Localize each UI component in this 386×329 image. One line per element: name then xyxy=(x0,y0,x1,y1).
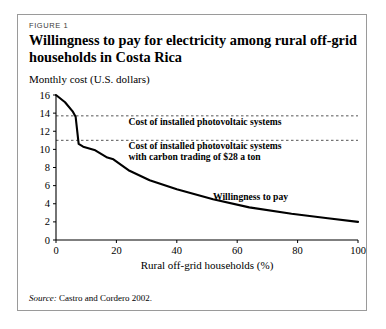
source-citation: Castro and Cordero 2002. xyxy=(57,293,152,303)
willingness-to-pay-line-chart: 0246810121416020406080100Rural off-grid … xyxy=(18,87,368,282)
x-tick-label: 20 xyxy=(111,245,122,256)
chart-plot-area: 0246810121416020406080100Rural off-grid … xyxy=(18,87,368,282)
x-tick-label: 60 xyxy=(232,245,243,256)
figure-card: FIGURE 1 Willingness to pay for electric… xyxy=(17,14,367,311)
y-tick-label: 12 xyxy=(40,126,51,137)
y-axis-title: Monthly cost (U.S. dollars) xyxy=(29,73,150,85)
x-tick-label: 100 xyxy=(350,245,366,256)
source-note: Source: Castro and Cordero 2002. xyxy=(29,293,152,303)
y-tick-label: 8 xyxy=(45,162,50,173)
threshold-annotation-0: Cost of installed photovoltaic systems xyxy=(128,116,281,127)
annotations-group: Cost of installed photovoltaic systemsCo… xyxy=(128,116,281,162)
y-tick-label: 4 xyxy=(45,198,51,209)
y-tick-label: 14 xyxy=(40,108,51,119)
y-tick-label: 2 xyxy=(45,216,50,227)
x-tick-label: 0 xyxy=(53,245,58,256)
y-tick-label: 16 xyxy=(40,90,51,101)
source-label: Source: xyxy=(29,293,57,303)
x-axis-title: Rural off-grid households (%) xyxy=(141,259,274,272)
x-tick-label: 80 xyxy=(292,245,303,256)
figure-number-label: FIGURE 1 xyxy=(29,21,68,30)
x-tick-label: 40 xyxy=(172,245,183,256)
y-tick-label: 0 xyxy=(45,235,50,246)
threshold-annotation-1: Cost of installed photovoltaic systemswi… xyxy=(128,140,281,162)
y-tick-label: 10 xyxy=(40,144,51,155)
series-label-willingness-to-pay: Willingness to pay xyxy=(213,191,288,202)
figure-title: Willingness to pay for electricity among… xyxy=(29,32,359,66)
y-tick-label: 6 xyxy=(45,180,50,191)
